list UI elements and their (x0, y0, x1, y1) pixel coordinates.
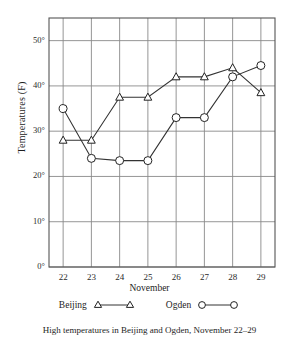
legend-item-ogden: Ogden (166, 299, 240, 311)
legend-item-beijing: Beijing (59, 299, 136, 311)
x-tick-label: 23 (79, 272, 103, 282)
x-tick-label: 28 (221, 272, 245, 282)
x-tick-label: 29 (249, 272, 273, 282)
legend-triangle-swatch-icon (92, 299, 136, 311)
y-tick-label: 10° (19, 216, 45, 226)
chart-legend: Beijing Ogden (0, 299, 299, 311)
legend-label-ogden: Ogden (166, 300, 191, 310)
chart-figure: Temperatures (F) 0°10°20°30°40°50° 22232… (0, 0, 299, 349)
x-tick-label: 22 (51, 272, 75, 282)
chart-caption: High temperatures in Beijing and Ogden, … (0, 325, 299, 335)
y-tick-label: 50° (19, 35, 45, 45)
y-tick-label: 40° (19, 80, 45, 90)
y-tick-label: 30° (19, 125, 45, 135)
legend-circle-swatch-icon (196, 299, 240, 311)
x-tick-label: 26 (164, 272, 188, 282)
x-tick-label: 25 (136, 272, 160, 282)
y-axis-title: Temperatures (F) (16, 53, 27, 183)
x-tick-label: 24 (108, 272, 132, 282)
y-tick-label: 20° (19, 170, 45, 180)
x-tick-label: 27 (192, 272, 216, 282)
x-axis-title: November (0, 283, 299, 293)
legend-label-beijing: Beijing (59, 300, 87, 310)
y-tick-label: 0° (19, 261, 45, 271)
